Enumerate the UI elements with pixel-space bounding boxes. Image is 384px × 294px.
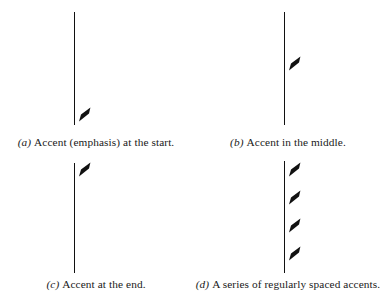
figure-panel-d: (d) A series of regularly spaced accents… [192,155,384,294]
panel-d-caption-text: A series of regularly spaced accents. [212,278,380,290]
panel-a-label: (a) [18,136,31,148]
panel-c-caption: (c) Accent at the end. [0,277,192,291]
panel-d-caption: (d) A series of regularly spaced accents… [192,277,384,291]
panel-b-accent-mark-1 [288,56,301,71]
figure-panel-b: (b) Accent in the middle. [192,0,384,155]
panel-b-caption: (b) Accent in the middle. [192,135,384,149]
figure-panel-a: (a) Accent (emphasis) at the start. [0,0,192,155]
panel-a-stem [74,12,75,125]
panel-c-accent-mark-1 [78,162,91,177]
figure-root: (a) Accent (emphasis) at the start. (b) … [0,0,384,294]
panel-d-accent-mark-2 [288,190,301,205]
panel-c-stem [74,163,75,273]
panel-a-notation [0,0,192,131]
panel-b-stem [284,12,285,125]
panel-c-label: (c) [46,278,59,290]
panel-d-label: (d) [196,278,209,290]
panel-a-caption: (a) Accent (emphasis) at the start. [0,135,192,149]
figure-panel-c: (c) Accent at the end. [0,155,192,294]
panel-b-label: (b) [230,136,243,148]
panel-a-caption-text: Accent (emphasis) at the start. [34,136,174,148]
panel-b-notation [192,0,384,131]
panel-d-notation [192,155,384,273]
panel-d-accent-mark-1 [288,162,301,177]
panel-c-caption-text: Accent at the end. [62,278,145,290]
panel-d-stem [284,161,285,273]
panel-d-accent-mark-3 [288,218,301,233]
panel-a-accent-mark-1 [78,107,91,122]
panel-b-caption-text: Accent in the middle. [247,136,346,148]
panel-c-notation [0,155,192,273]
panel-d-accent-mark-4 [288,246,301,261]
